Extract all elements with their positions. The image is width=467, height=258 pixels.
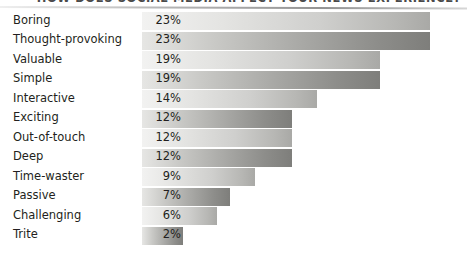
bar-track bbox=[142, 50, 467, 70]
bar-track bbox=[142, 89, 467, 109]
bar-track bbox=[142, 167, 467, 187]
bar-track bbox=[142, 226, 467, 246]
bar-row: Challenging6% bbox=[0, 206, 467, 226]
bar-row: Thought-provoking23% bbox=[0, 31, 467, 51]
bar-row: Time-waster9% bbox=[0, 167, 467, 187]
value-label: 6% bbox=[142, 210, 181, 222]
bar-row: Out-of-touch12% bbox=[0, 128, 467, 148]
bar-track bbox=[142, 31, 467, 51]
chart-title-clip: HOW DOES SOCIAL MEDIA AFFECT YOUR NEWS E… bbox=[0, 0, 467, 5]
value-label: 2% bbox=[142, 230, 181, 242]
category-label: Boring bbox=[13, 15, 50, 27]
bar bbox=[142, 12, 430, 30]
category-label: Passive bbox=[13, 191, 56, 203]
category-label: Interactive bbox=[13, 93, 75, 105]
bar-track bbox=[142, 109, 467, 129]
value-label: 12% bbox=[142, 132, 181, 144]
chart-title: HOW DOES SOCIAL MEDIA AFFECT YOUR NEWS E… bbox=[0, 0, 467, 5]
category-label: Valuable bbox=[13, 54, 62, 66]
value-label: 23% bbox=[142, 15, 181, 27]
bar-row: Passive7% bbox=[0, 187, 467, 207]
value-label: 14% bbox=[142, 93, 181, 105]
bar-row: Deep12% bbox=[0, 148, 467, 168]
category-label: Out-of-touch bbox=[13, 132, 85, 144]
category-label: Time-waster bbox=[13, 171, 84, 183]
value-label: 9% bbox=[142, 171, 181, 183]
value-label: 7% bbox=[142, 191, 181, 203]
bar-row: Boring23% bbox=[0, 11, 467, 31]
bar-chart-plot-area: Boring23%Thought-provoking23%Valuable19%… bbox=[0, 11, 467, 258]
value-label: 19% bbox=[142, 74, 181, 86]
category-label: Deep bbox=[13, 152, 43, 164]
bar-row: Exciting12% bbox=[0, 109, 467, 129]
bar-row: Trite2% bbox=[0, 226, 467, 246]
bar-track bbox=[142, 70, 467, 90]
value-label: 23% bbox=[142, 35, 181, 47]
bar-track bbox=[142, 128, 467, 148]
bar bbox=[142, 32, 430, 50]
bar-track bbox=[142, 148, 467, 168]
category-label: Thought-provoking bbox=[13, 35, 122, 47]
value-label: 12% bbox=[142, 113, 181, 125]
bar-row: Simple19% bbox=[0, 70, 467, 90]
bar-row: Interactive14% bbox=[0, 89, 467, 109]
bar-track bbox=[142, 206, 467, 226]
category-label: Exciting bbox=[13, 113, 59, 125]
value-label: 12% bbox=[142, 152, 181, 164]
category-label: Challenging bbox=[13, 210, 81, 222]
category-label: Trite bbox=[13, 230, 38, 242]
bar-row: Valuable19% bbox=[0, 50, 467, 70]
title-divider-rule bbox=[0, 6, 467, 9]
value-label: 19% bbox=[142, 54, 181, 66]
bar-track bbox=[142, 11, 467, 31]
bar-track bbox=[142, 187, 467, 207]
category-label: Simple bbox=[13, 74, 52, 86]
